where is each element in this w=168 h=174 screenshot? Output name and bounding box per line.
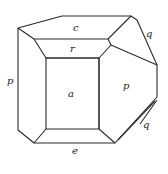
label-c: c: [73, 22, 79, 33]
label-p-left: p: [7, 75, 14, 86]
label-q-bottom: q: [143, 119, 149, 130]
label-e: e: [72, 145, 78, 156]
edge-p-q: [111, 45, 157, 65]
label-q-top: q: [146, 28, 152, 39]
crystal-outline: [18, 16, 157, 143]
edge-e-left: [34, 129, 46, 143]
label-p-right: p: [123, 80, 130, 91]
edge-q-lower: [118, 101, 155, 140]
label-a: a: [68, 88, 74, 99]
edge-e-right: [99, 129, 115, 143]
crystal-diagram: c r a p p q q e: [0, 0, 168, 174]
label-r: r: [70, 43, 76, 54]
